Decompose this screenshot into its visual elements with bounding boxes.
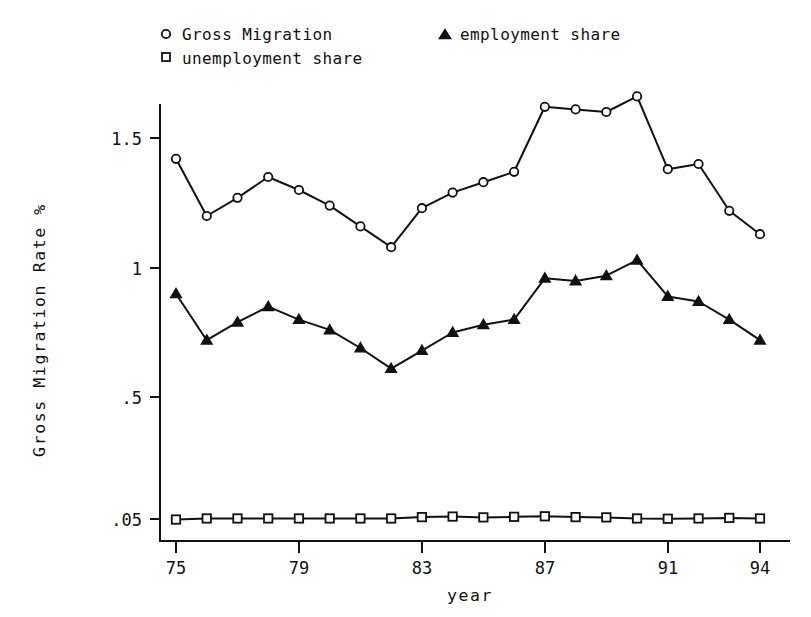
legend-label-gross-migration: Gross Migration xyxy=(182,25,333,44)
x-tick-label-79: 79 xyxy=(289,558,309,578)
data-point-square-open xyxy=(571,513,579,521)
data-point-circle-open xyxy=(172,155,180,163)
data-point-square-open xyxy=(233,514,241,522)
data-point-circle-open xyxy=(325,201,333,209)
series-employment-share xyxy=(171,255,765,372)
data-point-triangle-solid xyxy=(755,335,765,344)
data-point-circle-open xyxy=(203,212,211,220)
data-point-square-open xyxy=(541,512,549,520)
x-tick-label-75: 75 xyxy=(166,558,186,578)
data-point-triangle-solid xyxy=(263,302,273,311)
data-point-triangle-solid xyxy=(386,364,396,373)
data-point-circle-open xyxy=(664,165,672,173)
data-point-circle-open xyxy=(725,207,733,215)
data-point-triangle-solid xyxy=(724,315,734,324)
data-point-triangle-solid xyxy=(355,343,365,352)
legend-marker-triangle-solid xyxy=(440,30,451,38)
data-point-triangle-solid xyxy=(478,320,488,329)
data-point-square-open xyxy=(725,514,733,522)
data-point-square-open xyxy=(602,513,610,521)
data-point-triangle-solid xyxy=(325,325,335,334)
y-tick-label-1_5: 1.5 xyxy=(111,129,142,149)
data-point-circle-open xyxy=(633,92,641,100)
series-layer xyxy=(171,92,765,524)
x-axis: 75 79 83 87 91 94 year xyxy=(166,541,770,605)
data-point-circle-open xyxy=(264,173,272,181)
chart-figure: Gross Migration employment share unemplo… xyxy=(0,0,811,617)
x-tick-label-91: 91 xyxy=(658,558,678,578)
series-polyline xyxy=(176,260,760,368)
x-tick-label-87: 87 xyxy=(535,558,555,578)
data-point-square-open xyxy=(264,514,272,522)
y-axis-title: Gross Migration Rate % xyxy=(30,203,49,457)
y-tick-label-1: 1 xyxy=(132,259,142,279)
legend-marker-circle-open xyxy=(162,30,170,38)
data-point-square-open xyxy=(172,515,180,523)
data-point-square-open xyxy=(448,512,456,520)
chart-legend: Gross Migration employment share unemplo… xyxy=(162,25,621,68)
y-axis: 1.5 1 .5 .05 Gross Migration Rate % xyxy=(30,129,160,530)
data-point-square-open xyxy=(325,514,333,522)
data-point-circle-open xyxy=(295,186,303,194)
data-point-square-open xyxy=(203,514,211,522)
legend-label-employment-share: employment share xyxy=(460,25,621,44)
data-point-square-open xyxy=(387,514,395,522)
data-point-square-open xyxy=(479,513,487,521)
data-point-circle-open xyxy=(571,105,579,113)
x-tick-label-94: 94 xyxy=(750,558,770,578)
data-point-square-open xyxy=(510,513,518,521)
data-point-circle-open xyxy=(602,108,610,116)
y-tick-label-0_05: .05 xyxy=(111,510,142,530)
data-point-square-open xyxy=(694,514,702,522)
data-point-circle-open xyxy=(756,230,764,238)
data-point-triangle-solid xyxy=(540,273,550,282)
y-tick-label-0_5: .5 xyxy=(122,388,142,408)
series-unemployment-share xyxy=(172,512,764,524)
data-point-triangle-solid xyxy=(632,255,642,264)
data-point-square-open xyxy=(664,515,672,523)
data-point-square-open xyxy=(756,514,764,522)
data-point-circle-open xyxy=(479,178,487,186)
data-point-triangle-solid xyxy=(232,317,242,326)
data-point-square-open xyxy=(356,514,364,522)
data-point-circle-open xyxy=(448,188,456,196)
series-polyline xyxy=(176,96,760,247)
data-point-triangle-solid xyxy=(417,346,427,355)
x-tick-label-83: 83 xyxy=(412,558,432,578)
legend-marker-square-open xyxy=(162,53,170,61)
line-chart-canvas: Gross Migration employment share unemplo… xyxy=(0,0,811,617)
data-point-triangle-solid xyxy=(448,328,458,337)
data-point-triangle-solid xyxy=(294,315,304,324)
data-point-circle-open xyxy=(387,243,395,251)
series-gross-migration xyxy=(172,92,764,251)
data-point-triangle-solid xyxy=(601,271,611,280)
data-point-triangle-solid xyxy=(694,297,704,306)
data-point-triangle-solid xyxy=(171,289,181,298)
data-point-circle-open xyxy=(233,194,241,202)
data-point-square-open xyxy=(633,514,641,522)
data-point-circle-open xyxy=(510,168,518,176)
data-point-circle-open xyxy=(694,160,702,168)
legend-label-unemployment-share: unemployment share xyxy=(182,49,363,68)
data-point-circle-open xyxy=(356,222,364,230)
x-axis-title: year xyxy=(447,586,493,605)
data-point-circle-open xyxy=(541,103,549,111)
data-point-circle-open xyxy=(418,204,426,212)
data-point-triangle-solid xyxy=(571,276,581,285)
axis-lines xyxy=(160,104,790,541)
data-point-square-open xyxy=(418,513,426,521)
data-point-square-open xyxy=(295,514,303,522)
